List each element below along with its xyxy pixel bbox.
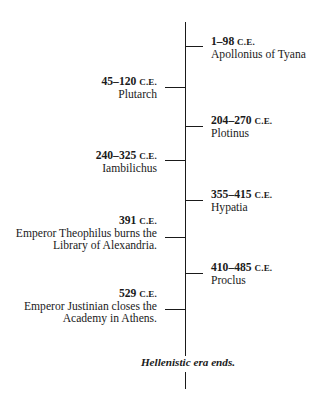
tick-mark [165,87,186,88]
era-suffix: C.E. [139,289,157,299]
entry-date: 1–98 [211,35,234,48]
entry-label: Apollonius of Tyana [211,49,306,62]
entry-date: 391 [119,214,136,227]
timeline-entry: 410–485 C.E. Proclus [211,262,272,287]
entry-date: 204–270 [211,114,252,127]
timeline-entry: 529 C.E. Emperor Justinian closes the Ac… [24,288,157,326]
timeline-end-label: Hellenistic era ends. [140,356,236,368]
era-suffix: C.E. [139,77,157,87]
tick-mark [186,273,203,274]
era-suffix: C.E. [237,37,255,47]
entry-label: Proclus [211,275,272,288]
entry-date: 410–485 [211,261,252,274]
entry-date: 240–325 [96,149,137,162]
timeline-axis-tail [185,372,186,389]
era-suffix: C.E. [139,216,157,226]
era-suffix: C.E. [139,151,157,161]
timeline-entry: 355–415 C.E. Hypatia [211,189,272,214]
tick-mark [186,126,203,127]
timeline-entry: 1–98 C.E. Apollonius of Tyana [211,36,306,61]
timeline-axis [185,22,186,356]
entry-date: 355–415 [211,188,252,201]
tick-mark [165,160,186,161]
entry-label: Plotinus [211,128,272,141]
entry-label: Academy in Athens. [24,313,157,326]
entry-date: 529 [119,287,136,300]
entry-label: Hypatia [211,202,272,215]
entry-label: Iambilichus [96,163,157,176]
tick-mark [186,46,203,47]
tick-mark [186,200,203,201]
entry-label: Library of Alexandria. [16,240,157,253]
era-suffix: C.E. [254,190,272,200]
timeline-entry: 204–270 C.E. Plotinus [211,115,272,140]
tick-mark [165,237,186,238]
entry-label: Plutarch [102,89,158,102]
era-suffix: C.E. [254,263,272,273]
era-suffix: C.E. [254,116,272,126]
entry-date: 45–120 [102,75,137,88]
timeline-entry: 240–325 C.E. Iambilichus [96,150,157,175]
timeline-entry: 391 C.E. Emperor Theophilus burns the Li… [16,215,157,253]
tick-mark [165,309,186,310]
timeline-entry: 45–120 C.E. Plutarch [102,76,158,101]
